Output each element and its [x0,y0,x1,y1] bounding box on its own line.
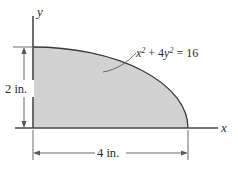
vertical-dimension-label: 2 in. [5,82,27,96]
vertical-dimension-arrow-bottom [21,121,26,128]
svg-text:x2 + 4y2 = 16: x2 + 4y2 = 16 [135,46,198,60]
figure-svg: y x 2 in. 4 in. x2 + 4y [0,0,238,171]
figure-container: y x 2 in. 4 in. x2 + 4y [0,0,238,171]
vertical-dimension-arrow-top [21,47,26,54]
equation-operator: + [145,46,158,60]
equation-rhs: 16 [186,46,198,60]
curve-equation-label: x2 + 4y2 = 16 [135,46,198,60]
horizontal-dimension-arrow-left [33,150,40,155]
x-axis-label: x [220,120,227,135]
horizontal-dimension-label: 4 in. [97,146,119,160]
y-axis-label: y [35,4,43,19]
equation-equals: = [173,46,186,60]
horizontal-dimension-arrow-right [181,150,188,155]
